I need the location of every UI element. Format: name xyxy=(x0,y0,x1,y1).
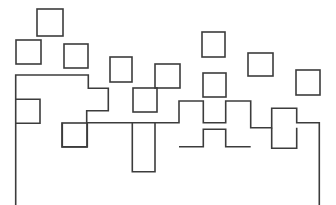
line-art-figure xyxy=(0,0,336,205)
background-rect xyxy=(0,0,336,205)
figure-canvas xyxy=(0,0,336,205)
